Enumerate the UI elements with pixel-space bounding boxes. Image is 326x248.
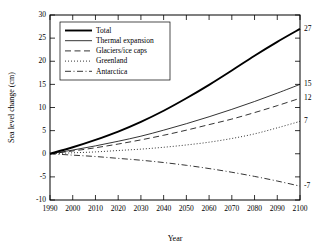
- legend-label-total: Total: [96, 26, 111, 35]
- x-tick-label: 2090: [270, 204, 285, 213]
- legend-label-thermal-expansion: Thermal expansion: [96, 36, 154, 45]
- legend-label-antarctica: Antarctica: [96, 67, 128, 76]
- x-tick-label: 2070: [224, 204, 239, 213]
- series-line-greenland: [50, 121, 300, 153]
- endpoint-label-glaciers-ice-caps: 12: [304, 93, 312, 102]
- x-tick-label: 2100: [293, 204, 308, 213]
- endpoint-label-greenland: 7: [304, 116, 308, 125]
- x-tick-label: 2040: [156, 204, 171, 213]
- endpoint-label-thermal-expansion: 15: [304, 79, 312, 88]
- x-tick-label: 2010: [88, 204, 103, 213]
- y-tick-label: 10: [39, 103, 47, 112]
- x-axis-title: Year: [168, 234, 183, 243]
- y-tick-label: 0: [42, 149, 46, 158]
- y-tick-label: 15: [39, 80, 47, 89]
- endpoint-label-antarctica: -7: [304, 181, 310, 190]
- legend-label-glaciers-ice-caps: Glaciers/ice caps: [96, 46, 147, 55]
- legend-label-greenland: Greenland: [96, 56, 127, 65]
- x-tick-label: 2020: [111, 204, 126, 213]
- y-axis-title: Sea level change (cm): [7, 72, 16, 143]
- y-tick-label: -5: [40, 172, 46, 181]
- x-tick-label: 2050: [179, 204, 194, 213]
- y-tick-label: 30: [39, 10, 47, 19]
- endpoint-label-total: 27: [304, 24, 312, 33]
- x-tick-label: 2080: [247, 204, 262, 213]
- y-tick-label: 5: [42, 126, 46, 135]
- series-line-antarctica: [50, 154, 300, 186]
- chart-canvas: -10-505101520253019902000201020202030204…: [0, 0, 326, 248]
- x-tick-label: 2000: [65, 204, 80, 213]
- sea-level-chart-figure: -10-505101520253019902000201020202030204…: [0, 0, 326, 248]
- y-tick-label: -10: [36, 195, 46, 204]
- series-line-glaciers-ice-caps: [50, 98, 300, 154]
- y-tick-label: 20: [39, 56, 47, 65]
- x-tick-label: 2030: [133, 204, 148, 213]
- x-tick-label: 1990: [43, 204, 58, 213]
- y-tick-label: 25: [39, 33, 47, 42]
- x-tick-label: 2060: [202, 204, 217, 213]
